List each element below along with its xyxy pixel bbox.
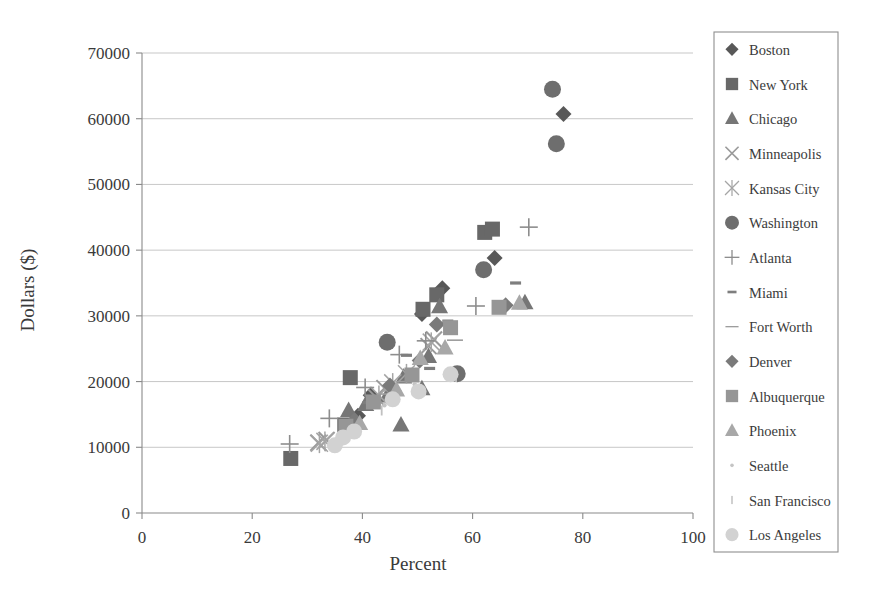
legend-item-label: Atlanta — [749, 250, 792, 266]
legend-item-label: Kansas City — [749, 181, 820, 197]
data-point-marker — [401, 354, 412, 357]
legend-marker-icon — [725, 216, 739, 230]
series-washington — [379, 81, 565, 383]
plot-canvas: 010000200003000040000500006000070000 020… — [0, 0, 876, 596]
data-point-marker — [379, 334, 396, 351]
data-point-marker — [392, 416, 409, 431]
data-point-marker — [281, 435, 299, 453]
data-point-marker — [548, 135, 565, 152]
legend-marker-icon — [726, 390, 738, 402]
data-point-marker — [417, 332, 435, 350]
data-point-marker — [443, 320, 458, 335]
y-tick-label: 30000 — [88, 307, 131, 326]
scatter-chart-figure: 010000200003000040000500006000070000 020… — [0, 0, 876, 596]
legend-item-label: San Francisco — [749, 493, 831, 509]
data-point-marker — [437, 339, 454, 354]
legend-item-label: New York — [749, 77, 809, 93]
legend-marker-icon — [730, 464, 734, 468]
legend-marker-icon — [725, 528, 738, 541]
legend-item-label: Chicago — [749, 111, 797, 127]
legend-item-label: Miami — [749, 285, 788, 301]
data-point-marker — [343, 370, 358, 385]
data-point-marker — [327, 437, 343, 453]
data-point-marker — [320, 409, 338, 427]
data-point-marker — [416, 302, 431, 317]
legend-item-label: Fort Worth — [749, 319, 813, 335]
data-point-marker — [510, 281, 521, 284]
data-point-marker — [467, 297, 485, 315]
y-tick-label: 60000 — [88, 110, 131, 129]
x-tick-label: 40 — [354, 528, 371, 547]
legend-item-label: Seattle — [749, 458, 788, 474]
legend-item-label: Denver — [749, 354, 792, 370]
legend: BostonNew YorkChicagoMinneapolisKansas C… — [714, 32, 838, 552]
y-tick-label: 70000 — [88, 44, 131, 63]
legend-item-label: Washington — [749, 215, 819, 231]
x-tick-label: 80 — [574, 528, 591, 547]
legend-marker-icon — [727, 291, 736, 294]
data-point-marker — [424, 367, 435, 370]
legend-marker-icon — [731, 496, 732, 504]
legend-item-label: Boston — [749, 42, 791, 58]
axes-group — [136, 53, 693, 519]
data-point-marker — [429, 287, 444, 302]
y-tick-label: 50000 — [88, 175, 131, 194]
data-point-marker — [556, 106, 572, 122]
x-tick-label: 0 — [138, 528, 147, 547]
y-tick-label: 0 — [122, 504, 131, 523]
x-tick-label: 60 — [464, 528, 481, 547]
data-point-marker — [520, 218, 538, 236]
data-point-marker — [475, 261, 492, 278]
legend-item-label: Albuquerque — [749, 389, 825, 405]
data-point-marker — [283, 451, 298, 466]
x-tick-labels: 020406080100 — [138, 528, 706, 547]
legend-marker-icon — [725, 326, 738, 327]
y-tick-labels: 010000200003000040000500006000070000 — [88, 44, 131, 523]
data-points-group — [281, 81, 572, 466]
data-point-marker — [385, 391, 401, 407]
x-tick-label: 20 — [244, 528, 261, 547]
legend-marker-icon — [726, 78, 738, 90]
legend-item-label: Minneapolis — [749, 146, 822, 162]
y-tick-label: 20000 — [88, 373, 131, 392]
data-point-marker — [382, 403, 386, 407]
data-point-marker — [485, 222, 500, 237]
data-point-marker — [381, 405, 383, 415]
x-axis-title: Percent — [390, 553, 448, 574]
y-tick-label: 10000 — [88, 438, 131, 457]
data-point-marker — [429, 316, 445, 332]
data-point-marker — [443, 366, 459, 382]
data-point-marker — [366, 394, 381, 409]
data-point-marker — [411, 383, 427, 399]
y-tick-label: 40000 — [88, 241, 131, 260]
legend-item-label: Phoenix — [749, 423, 797, 439]
data-point-marker — [544, 81, 561, 98]
series-atlanta — [281, 218, 538, 453]
y-axis-title: Dollars ($) — [17, 249, 39, 332]
legend-item-label: Los Angeles — [749, 527, 821, 543]
data-point-marker — [447, 339, 463, 341]
data-point-marker — [492, 300, 507, 315]
x-tick-label: 100 — [680, 528, 706, 547]
data-point-marker — [404, 368, 419, 383]
